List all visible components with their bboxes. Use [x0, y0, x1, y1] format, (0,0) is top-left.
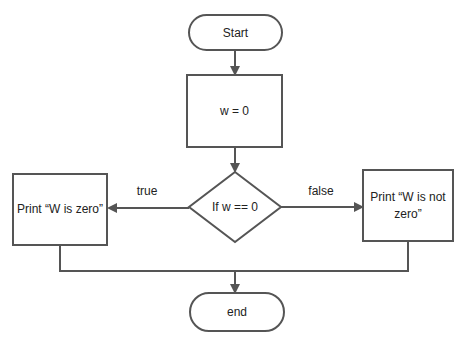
print-zero-label: Print “W is zero” [17, 202, 103, 216]
print-not-zero-node: Print “W is not zero” [363, 170, 453, 241]
assign-label: w = 0 [219, 104, 249, 118]
print-zero-node: Print “W is zero” [13, 174, 107, 245]
false-label: false [308, 184, 334, 198]
decision-node: If w == 0 [189, 172, 281, 242]
merge-connector [60, 241, 408, 271]
print-not-zero-label-line2: zero” [394, 207, 421, 221]
start-node: Start [189, 15, 282, 50]
start-label: Start [223, 26, 249, 40]
assign-node: w = 0 [187, 75, 282, 147]
flowchart-canvas: Start w = 0 If w == 0 true false Print “… [0, 0, 463, 338]
decision-label: If w == 0 [212, 200, 258, 214]
true-label: true [137, 184, 158, 198]
end-label: end [227, 305, 247, 319]
print-not-zero-label-line1: Print “W is not [370, 190, 446, 204]
end-node: end [190, 293, 284, 331]
